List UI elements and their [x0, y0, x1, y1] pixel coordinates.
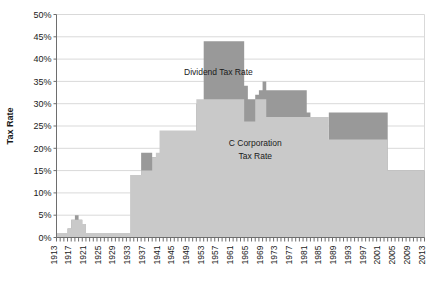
chart-canvas: 0%5%10%15%20%25%30%35%40%45%50%191319171… — [0, 0, 438, 281]
x-axis-tick-label: 1977 — [284, 245, 294, 264]
x-axis-tick-label: 1961 — [225, 245, 235, 264]
x-axis-tick-label: 1989 — [328, 245, 338, 264]
y-axis-tick-label: 40% — [33, 54, 51, 64]
x-axis-tick-label: 1941 — [152, 245, 162, 264]
x-axis-tick-label: 1997 — [358, 245, 368, 264]
x-axis-tick-label: 1949 — [181, 245, 191, 264]
x-axis-tick-label: 1953 — [196, 245, 206, 264]
x-axis-tick-label: 2001 — [372, 245, 382, 264]
y-axis-tick-label: 10% — [33, 188, 51, 198]
y-axis-tick-label: 0% — [38, 233, 51, 243]
x-axis-tick-label: 2005 — [387, 245, 397, 264]
y-axis-tick-label: 50% — [33, 10, 51, 20]
y-axis-tick-label: 35% — [33, 77, 51, 87]
x-axis-tick-label: 1985 — [313, 245, 323, 264]
y-axis-tick-label: 5% — [38, 210, 51, 220]
y-axis-title: Tax Rate — [5, 108, 15, 145]
x-axis-tick-label: 1917 — [63, 245, 73, 264]
series-annotation-label: Dividend Tax Rate — [184, 67, 253, 77]
x-axis-tick-label: 1933 — [122, 245, 132, 264]
x-axis-tick-label: 1913 — [49, 245, 59, 264]
x-axis-tick-label: 1965 — [240, 245, 250, 264]
x-axis-tick-label: 1925 — [93, 245, 103, 264]
y-axis-tick-label: 15% — [33, 166, 51, 176]
y-axis-tick-label: 25% — [33, 121, 51, 131]
x-axis-tick-label: 1981 — [299, 245, 309, 264]
series-annotation-label: Tax Rate — [238, 151, 272, 161]
tax-rate-area-chart: 0%5%10%15%20%25%30%35%40%45%50%191319171… — [0, 0, 438, 281]
y-axis-tick-label: 20% — [33, 144, 51, 154]
series-annotation-label: C Corporation — [229, 138, 282, 148]
x-axis-tick-label: 1929 — [107, 245, 117, 264]
x-axis-tick-label: 2009 — [402, 245, 412, 264]
x-axis-tick-label: 1957 — [210, 245, 220, 264]
y-axis-tick-label: 45% — [33, 32, 51, 42]
x-axis-tick-label: 2013 — [417, 245, 427, 264]
x-axis-tick-label: 1937 — [137, 245, 147, 264]
x-axis-tick-label: 1973 — [269, 245, 279, 264]
x-axis-tick-label: 1969 — [255, 245, 265, 264]
y-axis-tick-label: 30% — [33, 99, 51, 109]
x-axis-tick-label: 1945 — [166, 245, 176, 264]
x-axis-tick-label: 1993 — [343, 245, 353, 264]
x-axis-tick-label: 1921 — [78, 245, 88, 264]
